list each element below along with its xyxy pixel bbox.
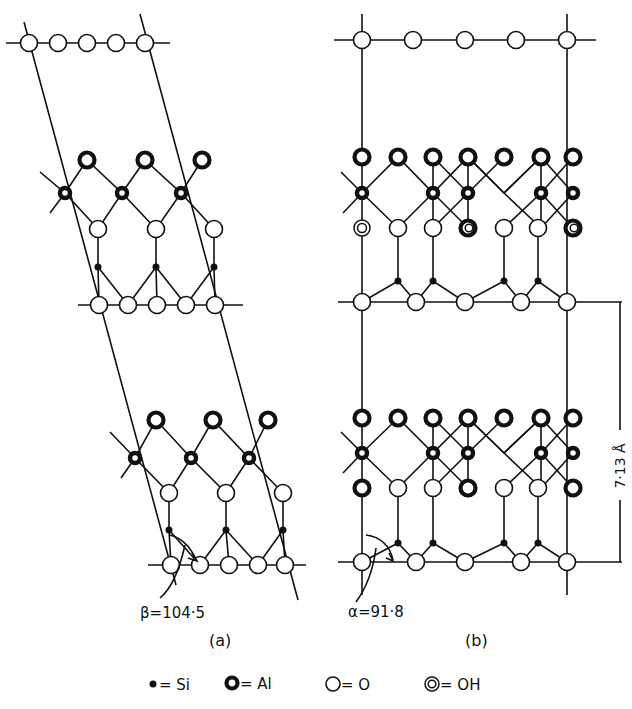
kaolinite-structure-diagram: β=104·5 (a) α=91·8 (b) 7·13 Å = Si = Al … <box>0 0 632 709</box>
o-circle-icon <box>326 677 340 691</box>
panel-b-cell-edges <box>362 14 622 595</box>
panel-a-label: (a) <box>209 631 231 650</box>
alpha-angle-label: α=91·8 <box>348 603 404 621</box>
oh-double-ring-icon <box>425 677 439 691</box>
si-dot-icon <box>150 681 157 688</box>
oh-group <box>461 221 476 236</box>
al-ring-icon <box>227 678 238 689</box>
legend-item-al: = Al <box>227 675 272 693</box>
oh-group <box>566 221 581 236</box>
panel-b <box>334 14 622 602</box>
legend-label-oh: = OH <box>440 676 480 694</box>
panel-b-lower-layer <box>338 411 581 571</box>
legend-item-si: = Si <box>150 676 191 694</box>
panel-b-label: (b) <box>465 631 488 650</box>
oh-group <box>354 220 370 236</box>
panel-a <box>6 14 306 600</box>
panel-a-upper-layer <box>40 153 243 314</box>
legend: = Si = Al = O = OH <box>150 675 481 694</box>
legend-item-o: = O <box>326 676 370 694</box>
panel-a-top-oxygen-row <box>6 35 170 52</box>
legend-label-o: = O <box>341 676 370 694</box>
beta-angle-label: β=104·5 <box>140 604 205 622</box>
panel-b-top-oxygen-row <box>334 32 596 49</box>
dimension-label: 7·13 Å <box>612 443 628 489</box>
legend-item-oh: = OH <box>425 676 480 694</box>
panel-a-lower-layer <box>110 413 306 574</box>
legend-label-si: = Si <box>159 676 190 694</box>
legend-label-al: = Al <box>240 675 272 693</box>
panel-b-upper-layer <box>338 150 581 311</box>
